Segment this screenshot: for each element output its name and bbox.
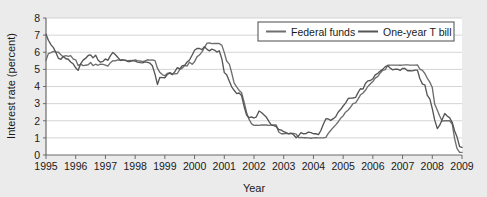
x-tick-label: 2001: [213, 160, 237, 172]
x-axis-title: Year: [243, 182, 266, 194]
y-tick-label: 3: [34, 97, 40, 109]
y-tick-label: 7: [34, 29, 40, 41]
x-tick-label: 2002: [242, 160, 266, 172]
y-tick-labels: 012345678: [34, 12, 40, 161]
x-tick-label: 1995: [34, 160, 58, 172]
x-tick-label: 2006: [361, 160, 385, 172]
y-tick-label: 2: [34, 115, 40, 127]
legend-label-federal-funds: Federal funds: [291, 26, 355, 38]
interest-rate-chart-figure: 1995199619971998199920002001200220032004…: [0, 0, 487, 197]
legend-label-one-year-t-bill: One-year T bill: [383, 26, 451, 38]
x-tick-label: 1997: [94, 160, 118, 172]
y-tick-label: 0: [34, 149, 40, 161]
x-tick-label: 2009: [450, 160, 474, 172]
x-tick-label: 1998: [123, 160, 147, 172]
x-tick-label: 2005: [331, 160, 355, 172]
y-tick-label: 5: [34, 63, 40, 75]
legend: Federal funds One-year T bill: [258, 22, 454, 41]
y-tick-label: 4: [34, 80, 40, 92]
y-axis-title: Interest rate (percent): [5, 33, 17, 139]
x-tick-label: 2004: [302, 160, 326, 172]
y-tick-label: 8: [34, 12, 40, 24]
x-tick-label: 2008: [421, 160, 445, 172]
x-tick-label: 2000: [183, 160, 207, 172]
y-tick-label: 6: [34, 46, 40, 58]
x-tick-label: 2003: [272, 160, 296, 172]
x-tick-label: 1999: [153, 160, 177, 172]
x-tick-labels: 1995199619971998199920002001200220032004…: [34, 160, 474, 172]
chart-svg: 1995199619971998199920002001200220032004…: [0, 0, 487, 197]
x-tick-label: 2007: [391, 160, 415, 172]
x-tick-label: 1996: [64, 160, 88, 172]
y-tick-label: 1: [34, 132, 40, 144]
